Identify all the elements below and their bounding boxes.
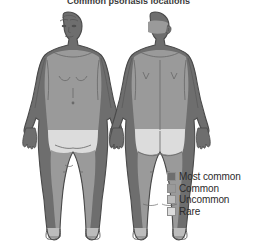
legend-label-rare: Rare — [179, 206, 200, 217]
legend-swatch-most-common — [167, 172, 176, 181]
legend-label-common: Common — [179, 183, 219, 194]
region-legs — [51, 150, 96, 231]
legend-item-uncommon: Uncommon — [167, 194, 257, 206]
legend-swatch-common — [167, 184, 176, 193]
region-groin — [48, 130, 98, 154]
legend-label-uncommon: Uncommon — [179, 194, 229, 205]
body-distribution-diagram: Common psoriasis locations — [0, 0, 257, 250]
legend-swatch-uncommon — [167, 195, 176, 204]
legend-label-most-common: Most common — [179, 171, 241, 182]
legend-item-rare: Rare — [167, 206, 257, 218]
legend-item-most-common: Most common — [167, 171, 257, 183]
legend: Most common Common Uncommon Rare — [167, 171, 257, 217]
legend-swatch-rare — [167, 207, 176, 216]
legend-item-common: Common — [167, 183, 257, 195]
